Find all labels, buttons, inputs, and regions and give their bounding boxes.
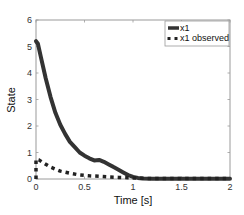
x-axis-label: Time [s] — [114, 194, 153, 206]
legend-observed-swatch-dot2 — [175, 37, 178, 40]
y-tick-label: 4 — [27, 68, 32, 78]
x-tick-label: 0 — [33, 182, 38, 192]
y-tick-label: 0 — [27, 174, 32, 184]
legend-observed-swatch-dot1 — [168, 37, 171, 40]
legend: x1 x1 observed — [165, 21, 229, 46]
y-axis-label: State — [5, 87, 17, 113]
x-tick-label: 1 — [130, 182, 135, 192]
legend-x1-observed-label: x1 observed — [180, 33, 229, 43]
y-tick-label: 5 — [27, 42, 32, 52]
state-vs-time-chart: 0123456 00.511.52 Time [s] State x1 x1 o… — [0, 0, 244, 215]
y-tick-label: 6 — [27, 15, 32, 25]
x-tick-label: 2 — [227, 182, 232, 192]
x-tick-label: 1.5 — [175, 182, 188, 192]
legend-x1-label: x1 — [180, 23, 190, 33]
y-tick-label: 1 — [27, 148, 32, 158]
x-tick-label: 0.5 — [78, 182, 91, 192]
y-tick-label: 2 — [27, 121, 32, 131]
y-tick-label: 3 — [27, 95, 32, 105]
